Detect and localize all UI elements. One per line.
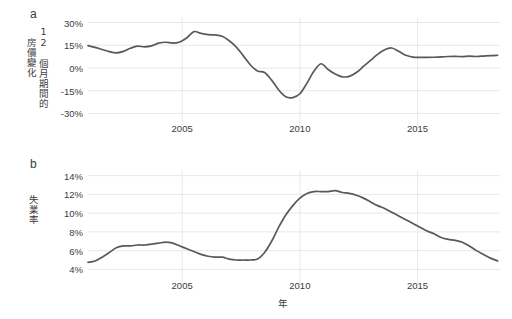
- panel-a: a 12 個月期間的 房價變化 30%15%0%-15%-30% 2005201…: [0, 0, 512, 150]
- panel-b-gridlines: [88, 170, 500, 285]
- panel-b-x-tick-label: 2005: [172, 280, 193, 291]
- panel-a-series-line: [88, 31, 498, 97]
- panel-b-y-tick-label: 4%: [69, 264, 88, 275]
- panel-b-y-tick-label: 14%: [64, 170, 88, 181]
- panel-a-y-tick-label: 0%: [69, 63, 88, 74]
- panel-b-letter: b: [30, 158, 37, 170]
- panel-b-x-tick-label: 2015: [407, 280, 428, 291]
- figure-root: a 12 個月期間的 房價變化 30%15%0%-15%-30% 2005201…: [0, 0, 512, 319]
- panel-a-y-tick-label: -30%: [61, 108, 88, 119]
- panel-a-x-tick-label: 2015: [407, 123, 428, 134]
- panel-b-y-axis-label: 失業率: [28, 195, 38, 225]
- panel-b-series-line: [88, 191, 498, 263]
- panel-b-svg: [88, 170, 500, 275]
- panel-b-y-tick-label: 8%: [69, 226, 88, 237]
- panel-b-x-tick-label: 2010: [289, 280, 310, 291]
- panel-a-y-tick-label: 30%: [64, 17, 88, 28]
- panel-b: b 失業率 14%12%10%8%6%4% 200520102015: [0, 150, 512, 319]
- panel-a-letter: a: [30, 8, 37, 20]
- panel-a-x-tick-label: 2010: [289, 123, 310, 134]
- panel-a-x-tick-label: 2005: [172, 123, 193, 134]
- panel-a-y-tick-label: 15%: [64, 40, 88, 51]
- panel-a-y-tick-label: -15%: [61, 85, 88, 96]
- panel-a-y-axis-label-line1: 房價變化: [26, 38, 36, 78]
- panel-a-svg: [88, 18, 500, 118]
- panel-a-y-axis-label-line2: 12 個月期間的: [38, 26, 48, 109]
- panel-b-y-tick-label: 12%: [64, 189, 88, 200]
- panel-b-y-tick-label: 6%: [69, 245, 88, 256]
- panel-b-y-tick-label: 10%: [64, 208, 88, 219]
- panel-b-plot-area: 14%12%10%8%6%4% 200520102015: [88, 170, 500, 275]
- panel-a-plot-area: 30%15%0%-15%-30% 200520102015: [88, 18, 500, 118]
- x-axis-label: 年: [278, 296, 288, 310]
- panel-a-gridlines: [88, 18, 500, 128]
